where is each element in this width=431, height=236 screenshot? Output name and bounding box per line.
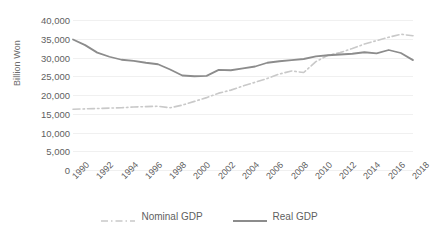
x-axis-tick-label: 2010	[313, 160, 334, 181]
x-axis-tick-label: 1996	[143, 160, 164, 181]
x-axis-tick-label: 1992	[94, 160, 115, 181]
x-axis-tick-label: 1990	[70, 160, 91, 181]
x-axis-tick-label: 2004	[240, 160, 261, 181]
legend-item-real-gdp[interactable]: Real GDP	[233, 211, 318, 222]
legend-label-real-gdp: Real GDP	[273, 211, 318, 222]
x-axis-tick-label: 2002	[216, 160, 237, 181]
x-axis-tick-label: 2006	[264, 160, 285, 181]
x-axis-tick-label: 1998	[167, 160, 188, 181]
dash-dot-line-swatch-icon	[101, 212, 135, 222]
legend-item-nominal-gdp[interactable]: Nominal GDP	[101, 211, 202, 222]
x-axis-tick-label: 2014	[361, 160, 382, 181]
x-axis-tick-label: 2016	[386, 160, 407, 181]
solid-line-swatch-icon	[233, 212, 267, 222]
x-axis-tick-label: 2018	[410, 160, 431, 181]
x-axis-tick-label: 2000	[191, 160, 212, 181]
x-axis-tick-label: 2008	[289, 160, 310, 181]
x-axis-tick-label: 2012	[337, 160, 358, 181]
legend-label-nominal-gdp: Nominal GDP	[141, 211, 202, 222]
chart-legend: Nominal GDP Real GDP	[0, 211, 419, 222]
x-axis-tick-label: 1994	[119, 160, 140, 181]
